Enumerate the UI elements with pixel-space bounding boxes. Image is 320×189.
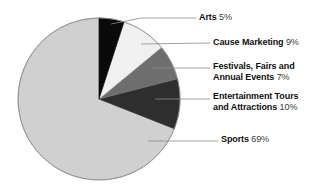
pie-label-entertainment[interactable]: Entertainment Tours and Attractions 10% [213,91,298,112]
pie-label-festivals-value: 7% [277,72,290,82]
pie-label-entertainment-category-line1: Entertainment Tours [213,91,298,101]
pie-label-festivals-category-line2: Annual Events [213,72,274,82]
pie-label-cause-marketing[interactable]: Cause Marketing 9% [213,37,299,48]
pie-label-arts-value: 5% [219,12,232,22]
pie-label-entertainment-value: 10% [280,102,298,112]
pie-label-arts-category: Arts [199,12,217,22]
pie-label-entertainment-category-line2: and Attractions [213,102,277,112]
pie-label-cause-marketing-value: 9% [286,37,299,47]
pie-label-sports-value: 69% [251,134,269,144]
pie-label-festivals-category-line1: Festivals, Fairs and [213,61,295,71]
pie-chart-figure: Arts 5% Cause Marketing 9% Festivals, Fa… [0,0,320,189]
pie-label-festivals[interactable]: Festivals, Fairs and Annual Events 7% [213,61,295,82]
pie-label-arts[interactable]: Arts 5% [199,12,232,23]
pie-label-sports-category: Sports [221,134,249,144]
pie-label-sports[interactable]: Sports 69% [221,134,269,145]
pie-label-cause-marketing-category: Cause Marketing [213,37,284,47]
